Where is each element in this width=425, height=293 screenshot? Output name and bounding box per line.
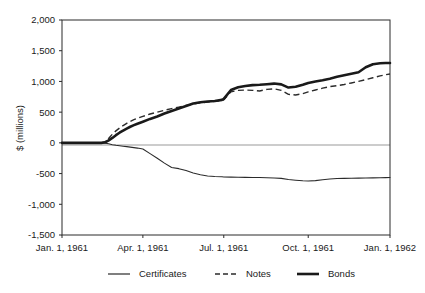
series-line-notes <box>62 74 390 143</box>
y-tick-label: 2,000 <box>31 14 55 25</box>
y-tick-label: -1,000 <box>28 199 55 210</box>
chart-legend: CertificatesNotesBonds <box>108 268 355 279</box>
plot-frame <box>62 20 390 235</box>
series-line-certificates <box>62 143 390 181</box>
data-series-group <box>62 63 390 181</box>
y-tick-label: 1,000 <box>31 76 55 87</box>
y-axis: 2,0001,5001,0005000-500-1,000-1,500 <box>28 14 62 240</box>
legend-label-bonds: Bonds <box>328 268 355 279</box>
y-axis-title-text: $ (millions) <box>14 105 25 151</box>
y-axis-title: $ (millions) <box>14 105 25 151</box>
x-tick-label: Jan. 1, 1961 <box>36 242 88 253</box>
x-tick-label: Jul. 1, 1961 <box>199 242 248 253</box>
x-tick-label: Apr. 1, 1961 <box>117 242 168 253</box>
legend-label-certificates: Certificates <box>139 268 187 279</box>
y-tick-label: -500 <box>36 168 55 179</box>
x-tick-label: Oct. 1, 1961 <box>282 242 334 253</box>
x-tick-label: Jan. 1, 1962 <box>364 242 416 253</box>
y-tick-label: 1,500 <box>31 45 55 56</box>
line-chart: $ (millions) 2,0001,5001,0005000-500-1,0… <box>0 0 425 293</box>
legend-label-notes: Notes <box>246 268 271 279</box>
x-axis: Jan. 1, 1961Apr. 1, 1961Jul. 1, 1961Oct.… <box>36 235 416 253</box>
y-tick-label: 0 <box>50 137 55 148</box>
y-tick-label: -1,500 <box>28 229 55 240</box>
series-line-bonds <box>62 63 390 143</box>
chart-container: $ (millions) 2,0001,5001,0005000-500-1,0… <box>0 0 425 293</box>
y-tick-label: 500 <box>39 107 55 118</box>
plot-area-border <box>62 20 390 235</box>
